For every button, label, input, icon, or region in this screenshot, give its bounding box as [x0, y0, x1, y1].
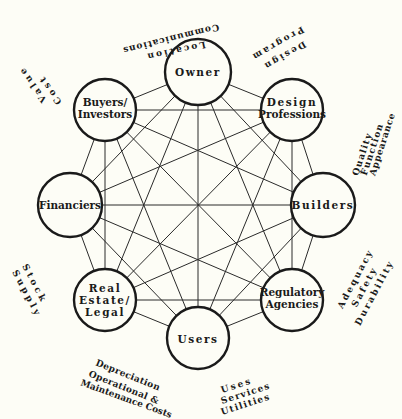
node-label: Investors [78, 108, 133, 120]
node-financiers: Financiers [38, 173, 102, 237]
node-label: Real [89, 282, 122, 294]
node-label: Professions [258, 108, 326, 120]
node-label: Financiers [39, 199, 101, 211]
outer-label-regulatory: Adequacy Safety Durability [335, 247, 396, 327]
outer-label-design: Design Program [249, 24, 307, 72]
node-label: Owner [175, 66, 221, 78]
node-label: Buyers/ [83, 96, 128, 108]
outer-label-builders: Quality Function Appearance [350, 111, 397, 177]
outer-label-users: Uses Services Utilities [220, 375, 272, 417]
node-real-estate-legal: Real Estate/ Legal [74, 269, 136, 331]
node-label: Users [177, 333, 218, 345]
node-label: Design [267, 96, 317, 108]
node-buyers-investors: Buyers/ Investors [74, 79, 136, 141]
outer-label-financiers: Stock Supply [10, 262, 49, 319]
outer-label-real-estate: Depreciation Operational & Maintenance C… [79, 358, 173, 419]
node-regulatory-agencies: Regulatory Agencies [260, 269, 326, 331]
outer-label-buyers: Cost Value [16, 64, 64, 107]
node-label: Estate/ [79, 294, 131, 306]
node-label: Builders [292, 199, 355, 211]
node-label: Agencies [265, 298, 319, 310]
node-users: Users [167, 307, 229, 369]
stakeholder-network-diagram: Owner Design Professions Builders Regula… [0, 0, 402, 419]
node-label: Regulatory [260, 286, 326, 298]
node-design-professions: Design Professions [258, 79, 326, 141]
node-builders: Builders [291, 173, 355, 237]
node-label: Legal [85, 306, 125, 318]
